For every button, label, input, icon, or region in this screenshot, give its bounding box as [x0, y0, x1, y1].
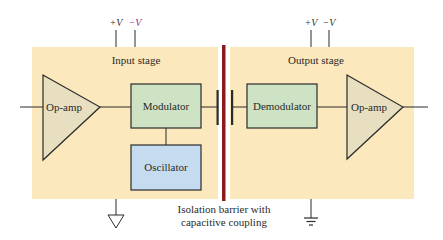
- isolation-amplifier-diagram: Input stage Output stage +V −V +V −V Op-…: [0, 0, 443, 240]
- input-plus-v-label: +V: [110, 17, 125, 28]
- barrier-caption-line2: capacitive coupling: [181, 216, 267, 228]
- modulator-label: Modulator: [143, 100, 190, 112]
- oscillator-label: Oscillator: [144, 161, 188, 173]
- output-stage-title: Output stage: [288, 54, 344, 66]
- output-plus-v-label: +V: [305, 17, 320, 28]
- barrier-caption-line1: Isolation barrier with: [178, 203, 271, 215]
- output-minus-v-label: −V: [323, 17, 338, 28]
- input-ground-icon: [108, 199, 124, 228]
- isolation-barrier: [222, 45, 226, 201]
- input-minus-v-label: −V: [129, 17, 144, 28]
- capacitor-plate-left-icon: [217, 90, 219, 125]
- output-opamp-label: Op-amp: [351, 101, 388, 113]
- demodulator-label: Demodulator: [253, 100, 311, 112]
- capacitor-plate-right-icon: [231, 90, 233, 125]
- output-ground-icon: [304, 199, 318, 225]
- input-opamp-label: Op-amp: [46, 101, 83, 113]
- input-stage-title: Input stage: [112, 54, 161, 66]
